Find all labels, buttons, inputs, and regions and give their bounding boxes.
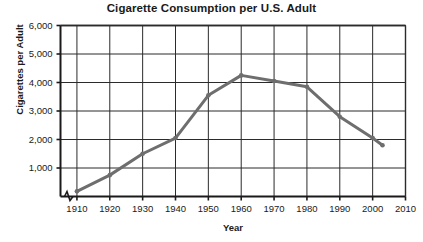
series-polyline <box>77 75 383 191</box>
x-tick-label-1980: 1980 <box>290 203 324 214</box>
x-tick-label-1930: 1930 <box>126 203 160 214</box>
data-point-2000 <box>370 136 375 141</box>
chart-container: Cigarette Consumption per U.S. Adult Cig… <box>0 0 423 242</box>
data-point-2003 <box>380 143 385 148</box>
data-point-1940 <box>173 136 178 141</box>
y-tick-label-5000: 5,000 <box>13 48 53 59</box>
x-tick-label-1960: 1960 <box>224 203 258 214</box>
x-tick-label-1920: 1920 <box>93 203 127 214</box>
horizontal-gridlines <box>61 26 406 169</box>
x-tick-label-2010: 2010 <box>389 203 423 214</box>
y-tick-label-4000: 4,000 <box>13 77 53 88</box>
data-point-1920 <box>107 173 112 178</box>
y-tick-label-2000: 2,000 <box>13 134 53 145</box>
y-tick-label-1000: 1,000 <box>13 162 53 173</box>
data-point-1960 <box>239 73 244 78</box>
x-tick-label-2000: 2000 <box>356 203 390 214</box>
data-point-1990 <box>337 114 342 119</box>
y-tick-label-3000: 3,000 <box>13 105 53 116</box>
data-point-1980 <box>305 84 310 89</box>
x-tick-label-1940: 1940 <box>159 203 193 214</box>
data-point-1930 <box>140 151 145 156</box>
data-series-line <box>77 75 383 191</box>
x-tick-label-1990: 1990 <box>323 203 357 214</box>
data-series-points <box>75 73 385 194</box>
data-point-1910 <box>75 189 80 194</box>
data-point-1970 <box>272 79 277 84</box>
y-tick-label-6000: 6,000 <box>13 20 53 31</box>
data-point-1950 <box>206 93 211 98</box>
x-tick-label-1970: 1970 <box>257 203 291 214</box>
x-tick-label-1910: 1910 <box>60 203 94 214</box>
x-tick-label-1950: 1950 <box>191 203 225 214</box>
